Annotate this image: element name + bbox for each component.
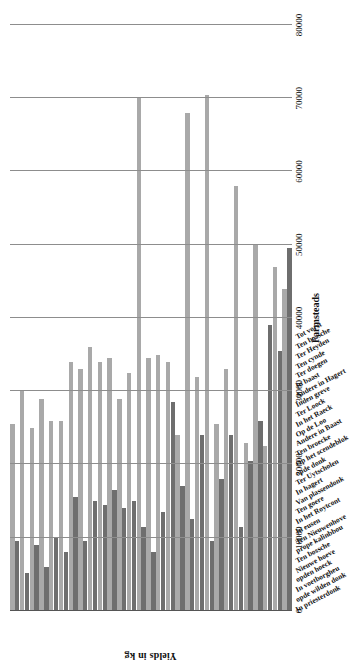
bar-group <box>29 25 39 611</box>
bar-series-1 <box>69 362 73 611</box>
bar-group <box>20 25 30 611</box>
bar-group <box>136 25 146 611</box>
bar-series-1 <box>224 369 228 611</box>
bar-series-1 <box>98 362 102 611</box>
gridline <box>10 97 292 98</box>
bar-series-2 <box>287 248 291 611</box>
bar-group <box>175 25 185 611</box>
bar-group <box>68 25 78 611</box>
bar-series-1 <box>166 362 170 611</box>
value-axis-line <box>10 610 292 611</box>
bar-group <box>195 25 205 611</box>
bar-series-1 <box>195 377 199 611</box>
plot-area <box>10 25 292 611</box>
category-axis-labels: In priesterdonkopde wilden donkIn voetbo… <box>294 25 356 611</box>
gridline <box>10 464 292 465</box>
bar-group <box>204 25 214 611</box>
bar-series-1 <box>282 289 286 611</box>
bar-series-1 <box>214 424 218 611</box>
bar-series-1 <box>10 424 14 611</box>
bar-series-1 <box>107 358 111 611</box>
gridline <box>10 171 292 172</box>
bar-series-1 <box>49 421 53 611</box>
bar-series-1 <box>39 399 43 611</box>
bar-group <box>78 25 88 611</box>
gridline <box>10 317 292 318</box>
bar-chart-figure: Yields in kg 010000200003000040000500006… <box>0 0 359 667</box>
gridline <box>10 537 292 538</box>
bar-group <box>107 25 117 611</box>
bar-group <box>166 25 176 611</box>
bar-series-1 <box>253 245 257 611</box>
bar-series-1 <box>59 421 63 611</box>
bar-group <box>10 25 20 611</box>
bar-series-1 <box>273 267 277 611</box>
bar-group <box>49 25 59 611</box>
bar-group <box>253 25 263 611</box>
bar-series-1 <box>156 355 160 611</box>
bar-group <box>273 25 283 611</box>
bar-series-1 <box>175 435 179 611</box>
bar-series-1 <box>88 347 92 611</box>
bar-series-1 <box>234 186 238 611</box>
gridline <box>10 244 292 245</box>
bar-series-1 <box>205 95 209 611</box>
bar-series-1 <box>244 443 248 611</box>
bar-group <box>39 25 49 611</box>
bar-group <box>88 25 98 611</box>
y-axis-title-text: Yields in kg <box>124 651 177 662</box>
bar-series-1 <box>30 428 34 611</box>
y-axis-title: Yields in kg <box>0 649 300 665</box>
bar-group <box>243 25 253 611</box>
bar-group <box>214 25 224 611</box>
bar-series-1 <box>78 369 82 611</box>
bar-series-1 <box>117 399 121 611</box>
bar-group <box>117 25 127 611</box>
gridline <box>10 390 292 391</box>
bar-group <box>146 25 156 611</box>
gridline <box>10 24 292 25</box>
bar-series-1 <box>137 98 141 611</box>
x-axis-title: Farmsteads <box>310 25 321 611</box>
chart-screenshot: Yields in kg 010000200003000040000500006… <box>0 0 359 667</box>
bar-group <box>234 25 244 611</box>
bar-group <box>156 25 166 611</box>
bar-series-1 <box>146 358 150 611</box>
bar-rows <box>10 25 292 611</box>
bar-group <box>127 25 137 611</box>
bar-group <box>263 25 273 611</box>
bar-series-1 <box>20 391 24 611</box>
bar-group <box>224 25 234 611</box>
bar-series-1 <box>127 373 131 611</box>
bar-group <box>282 25 292 611</box>
bar-group <box>98 25 108 611</box>
bar-series-1 <box>263 446 267 611</box>
bar-group <box>59 25 69 611</box>
bar-group <box>185 25 195 611</box>
